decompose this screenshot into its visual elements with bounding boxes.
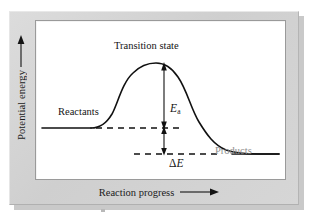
reactants-label: Reactants <box>58 107 99 118</box>
energy-diagram-figure: Potential energy <box>0 0 310 220</box>
y-axis-label: Potential energy <box>16 70 27 140</box>
activation-energy-label: Ea <box>170 103 180 115</box>
x-axis-label: Reaction progress <box>99 187 175 198</box>
plot-panel: Transition state Reactants Products Ea Δ… <box>35 20 286 180</box>
x-axis-label-group: Reaction progress <box>35 183 284 201</box>
activation-energy-arrow <box>161 62 167 130</box>
activation-energy-subscript: a <box>177 107 180 116</box>
delta-energy-arrow <box>161 127 167 156</box>
delta-energy-symbol: E <box>176 157 183 169</box>
right-arrow-icon <box>180 186 220 198</box>
potential-energy-curve <box>91 63 279 154</box>
footer-tick-mark <box>101 209 105 212</box>
transition-state-label: Transition state <box>114 41 179 52</box>
delta-energy-label: ΔE <box>169 158 183 170</box>
up-arrow-icon <box>15 34 27 68</box>
activation-energy-symbol: E <box>170 102 177 114</box>
y-axis-label-group: Potential energy <box>10 34 32 180</box>
products-label: Products <box>215 146 252 157</box>
